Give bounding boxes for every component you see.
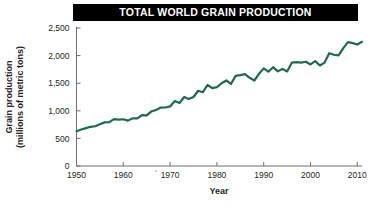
plot-area: 05001,0001,5002,0002,500 195019601970198… [0, 0, 372, 208]
x-tick-label: 1950 [67, 170, 86, 180]
y-tick-label: 1,500 [48, 78, 70, 88]
x-tick-label: 2000 [301, 170, 320, 180]
x-tick-label: 1990 [254, 170, 273, 180]
data-line-world-grain-production [77, 42, 363, 131]
y-tick-label: 1,000 [48, 106, 70, 116]
y-tick-label: 2,500 [48, 23, 70, 33]
y-tick-label: 500 [55, 134, 69, 144]
scan-artifact-mark: ˚ [155, 170, 157, 177]
y-tick-labels: 05001,0001,5002,0002,500 [48, 23, 70, 171]
x-tick-label: 1970 [161, 170, 180, 180]
y-tick-label: 2,000 [48, 51, 70, 61]
x-axis-title: Year [76, 186, 362, 196]
x-tick-labels: 1950196019701980199020002010˚ [67, 170, 367, 180]
chart-figure: TOTAL WORLD GRAIN PRODUCTION Grain produ… [0, 0, 372, 208]
x-tick-label: 1980 [207, 170, 226, 180]
x-tick-label: 2010 [348, 170, 367, 180]
axis-lines [77, 27, 363, 166]
data-line-group [77, 42, 363, 131]
x-tick-label: 1960 [114, 170, 133, 180]
